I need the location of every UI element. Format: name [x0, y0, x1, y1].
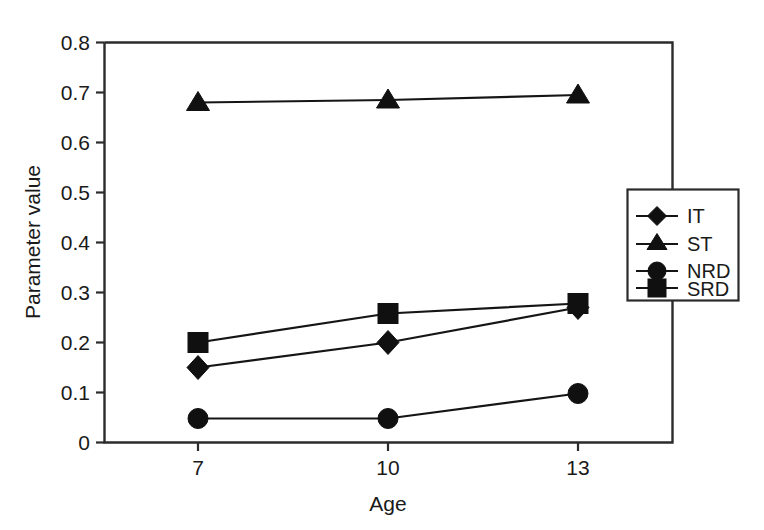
y-tick-label-0p1: 0.1	[61, 381, 90, 404]
x-tick-label-7: 7	[192, 456, 204, 479]
triangle-marker-icon	[567, 84, 590, 103]
y-tick-label-0p3: 0.3	[61, 281, 90, 304]
circle-marker-icon	[378, 409, 398, 429]
legend-label-st: ST	[687, 233, 713, 255]
y-tick-label-0: 0	[78, 431, 90, 454]
square-marker-icon	[188, 333, 208, 353]
y-tick-label-0p8: 0.8	[61, 31, 90, 54]
circle-marker-icon	[188, 409, 208, 429]
legend-label-it: IT	[687, 205, 705, 227]
y-axis-ticks	[96, 43, 105, 443]
x-axis-ticks	[198, 443, 578, 452]
triangle-marker-icon	[377, 89, 400, 108]
circle-marker-icon	[568, 384, 588, 404]
chart-figure: 0.8 0.7 0.6 0.5 0.4 0.3 0.2 0.1 0 7 10 1…	[0, 0, 764, 530]
y-axis-tick-labels: 0.8 0.7 0.6 0.5 0.4 0.3 0.2 0.1 0	[61, 31, 91, 454]
y-tick-label-0p6: 0.6	[61, 131, 90, 154]
chart-legend: IT ST NRD SRD	[628, 190, 739, 301]
x-tick-label-10: 10	[376, 456, 399, 479]
triangle-marker-icon	[187, 92, 210, 111]
diamond-marker-icon	[187, 356, 209, 380]
square-marker-icon	[568, 294, 588, 314]
y-tick-label-0p4: 0.4	[61, 231, 91, 254]
square-marker-icon	[378, 304, 398, 324]
diamond-marker-icon	[377, 331, 399, 355]
series-st	[187, 84, 590, 111]
y-tick-label-0p5: 0.5	[61, 181, 90, 204]
legend-label-srd: SRD	[687, 278, 729, 300]
x-tick-label-13: 13	[566, 456, 589, 479]
y-tick-label-0p2: 0.2	[61, 331, 90, 354]
circle-marker-icon	[648, 262, 666, 280]
series-layer	[187, 84, 590, 429]
y-axis-title: Parameter value	[21, 165, 44, 319]
square-marker-icon	[648, 279, 666, 297]
line-chart-canvas: 0.8 0.7 0.6 0.5 0.4 0.3 0.2 0.1 0 7 10 1…	[0, 0, 764, 530]
x-axis-title: Age	[369, 492, 406, 515]
y-tick-label-0p7: 0.7	[61, 81, 90, 104]
series-nrd	[188, 384, 588, 429]
x-axis-tick-labels: 7 10 13	[192, 456, 590, 479]
